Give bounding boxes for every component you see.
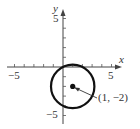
x-tick-label-pos5: 5 bbox=[108, 69, 114, 81]
point-label: (1, −2) bbox=[98, 91, 128, 104]
y-tick-label-neg5: −5 bbox=[46, 108, 58, 120]
x-tick-label-neg5: −5 bbox=[8, 69, 20, 81]
y-axis-label: y bbox=[52, 2, 58, 14]
graph: −5 5 5 −5 x y (1, −2) bbox=[0, 0, 140, 129]
x-axis-label: x bbox=[118, 53, 124, 65]
y-axis-arrow-icon bbox=[61, 9, 66, 16]
x-axis-arrow-icon bbox=[115, 65, 122, 70]
center-point bbox=[70, 84, 75, 89]
